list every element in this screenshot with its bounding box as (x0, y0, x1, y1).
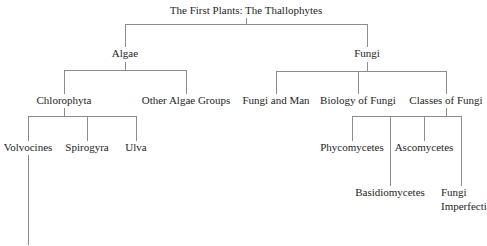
connector-to-basidiomycetes (390, 116, 391, 186)
connector-to-classes-of-fungi (446, 71, 447, 94)
connector-algae-stem (125, 62, 126, 70)
connector-to-volvocines (28, 116, 29, 141)
connector-to-fungi-imperfecti (461, 116, 462, 186)
node-chlorophyta: Chlorophyta (37, 94, 92, 107)
connector-classes-stem (446, 108, 447, 116)
node-classes-of-fungi: Classes of Fungi (409, 94, 482, 107)
node-fungi-imperfecti-line2: Imperfecti (441, 200, 487, 213)
node-fungi: Fungi (354, 47, 380, 60)
connector-chlorophyta-stem (64, 108, 65, 116)
connector-to-algae (125, 24, 126, 47)
connector-classes-bar (352, 116, 461, 117)
connector-to-biology-of-fungi (358, 71, 359, 94)
node-fungi-and-man: Fungi and Man (242, 94, 309, 107)
node-phycomycetes: Phycomycetes (320, 141, 384, 154)
node-biology-of-fungi: Biology of Fungi (320, 94, 396, 107)
node-basidiomycetes: Basidiomycetes (355, 186, 425, 199)
node-other-algae-groups: Other Algae Groups (142, 94, 231, 107)
connector-chlorophyta-bar (28, 116, 136, 117)
node-algae: Algae (112, 47, 138, 60)
connector-to-phycomycetes (352, 116, 353, 141)
connector-to-fungi-and-man (276, 71, 277, 94)
connector-to-spirogyra (87, 116, 88, 141)
connector-volvocines-continuation (28, 155, 29, 245)
node-volvocines: Volvocines (4, 141, 53, 154)
node-ulva: Ulva (125, 141, 146, 154)
node-spirogyra: Spirogyra (65, 141, 108, 154)
connector-to-fungi (367, 24, 368, 47)
connector-to-other-algae (186, 70, 187, 94)
root-node-title: The First Plants: The Thallophytes (170, 4, 322, 17)
connector-fungi-bar (276, 71, 446, 72)
node-ascomycetes: Ascomycetes (395, 141, 454, 154)
connector-to-chlorophyta (64, 70, 65, 94)
connector-root-bar (125, 24, 367, 25)
connector-algae-bar (64, 70, 186, 71)
node-fungi-imperfecti-line1: Fungi (441, 186, 467, 199)
connector-to-ulva (136, 116, 137, 141)
connector-fungi-stem (367, 62, 368, 71)
connector-to-ascomycetes (424, 116, 425, 141)
